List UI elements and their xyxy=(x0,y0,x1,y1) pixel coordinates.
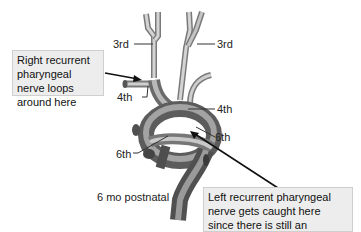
arrow-right-nerve xyxy=(105,73,142,82)
label-fourth-arch-right: 4th xyxy=(117,92,132,103)
callout-right-recurrent-nerve: Right recurrent pharyngeal nerve loops a… xyxy=(12,50,104,96)
left-carotid-vessels xyxy=(180,12,211,104)
label-sixth-arch-left: 6th xyxy=(215,132,230,143)
label-third-arch-left: 3rd xyxy=(217,39,233,50)
label-third-arch-right: 3rd xyxy=(113,39,129,50)
callout-left-recurrent-nerve: Left recurrent pharyngeal nerve gets cau… xyxy=(203,187,353,232)
label-fourth-arch-left: 4th xyxy=(217,104,232,115)
label-sixth-arch-right: 6th xyxy=(116,149,131,160)
aortic-arch xyxy=(132,107,214,220)
stage-label: 6 mo postnatal xyxy=(97,192,169,203)
